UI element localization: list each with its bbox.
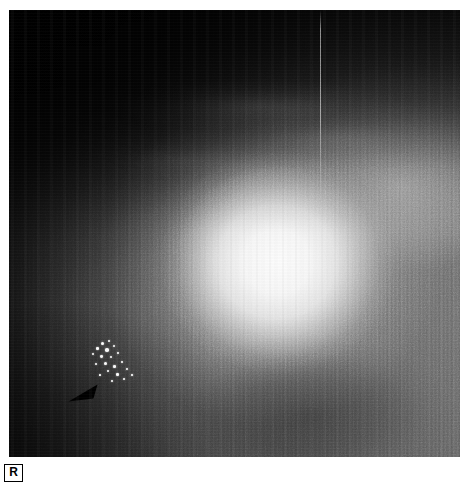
calcification-speck [113,345,115,347]
calcification-speck [108,340,110,342]
microcalcification-cluster [83,334,159,390]
calcification-speck [111,380,113,382]
calcification-speck [101,342,104,345]
radiograph-image [9,10,460,457]
arrowhead-marker [68,383,98,405]
calcification-speck [99,374,101,376]
calcification-speck [100,355,103,358]
calcification-speck [95,363,97,365]
calcification-speck [96,347,99,350]
calcification-speck [121,361,123,363]
calcification-speck [126,368,128,370]
calcification-speck [123,378,125,380]
calcification-speck [104,362,107,365]
calcification-speck [117,352,119,354]
laterality-marker: R [4,464,23,482]
calcification-speck [116,373,119,376]
calcification-speck [110,356,112,358]
calcification-speck [105,348,109,352]
vertical-artifact-line [320,10,321,206]
calcification-speck [92,353,94,355]
calcification-speck [107,370,109,372]
calcification-speck [131,374,133,376]
calcification-speck [113,365,116,368]
page-root: R [0,0,471,486]
